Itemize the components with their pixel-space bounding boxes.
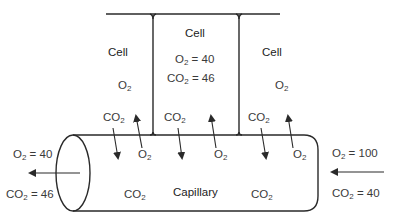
cell-1-o2: O2 xyxy=(118,80,131,92)
cell-3-label: Cell xyxy=(262,47,282,59)
cell-3-o2: O2 xyxy=(275,80,288,92)
cell-2-co2: CO2 xyxy=(164,112,186,124)
capillary-top-edge xyxy=(73,135,318,211)
cap-o2-1: O2 xyxy=(138,149,151,161)
co2-arrow-2 xyxy=(178,128,182,158)
inflow-o2: O2 = 100 xyxy=(332,148,378,160)
o2-arrow-3 xyxy=(288,116,293,148)
outflow-o2: O2 = 40 xyxy=(13,149,52,161)
cell-1-co2: CO2 xyxy=(103,112,125,124)
cap-o2-2: O2 xyxy=(214,149,227,161)
cell-2-label: Cell xyxy=(185,28,205,40)
cell-1-label: Cell xyxy=(108,47,128,59)
capillary-co2-right: CO2 xyxy=(251,189,273,201)
cell-divider-left xyxy=(150,14,153,135)
capillary-co2-left: CO2 xyxy=(124,189,146,201)
co2-arrow-1 xyxy=(113,128,118,158)
cell-2-o2-value: O2 = 40 xyxy=(175,54,214,66)
inflow-co2: CO2 = 40 xyxy=(332,188,380,200)
cell-3-co2: CO2 xyxy=(248,112,270,124)
o2-arrow-2 xyxy=(211,116,216,148)
cap-o2-3: O2 xyxy=(293,149,306,161)
o2-arrow-1 xyxy=(136,116,142,148)
capillary-label: Capillary xyxy=(173,187,218,199)
co2-arrow-3 xyxy=(261,128,266,158)
outflow-co2: CO2 = 46 xyxy=(6,189,54,201)
cell-divider-right xyxy=(236,14,239,135)
cell-2-co2-value: CO2 = 46 xyxy=(167,73,215,85)
